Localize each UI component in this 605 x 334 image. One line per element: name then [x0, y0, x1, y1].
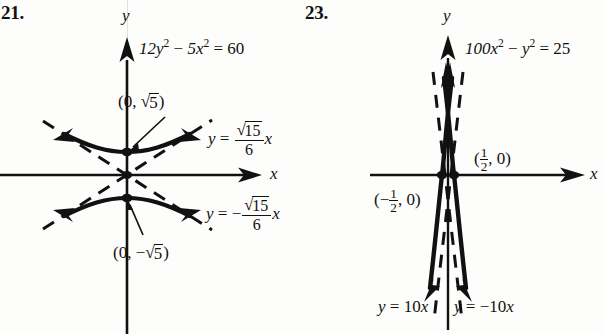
figure-23: 23. — [302, 0, 605, 334]
leader-line-top-21 — [133, 117, 165, 147]
equation-21: 12y2 − 5x2 = 60 — [139, 38, 244, 57]
vertex-label-top-21: (0, √5) — [118, 92, 164, 110]
y-axis-label-21: y — [122, 6, 130, 26]
figure-21: 21. — [0, 0, 302, 334]
vertex-dot-top-21 — [122, 148, 133, 156]
equation-23: 100x2 − y2 = 25 — [465, 38, 570, 57]
vertex-label-right-23: (12, 0) — [474, 146, 511, 174]
vertex-label-left-23: (−12, 0) — [374, 187, 421, 215]
asymptote-label-positive-23: y = 10x — [378, 298, 428, 315]
x-axis-label-21: x — [270, 164, 278, 184]
leader-arrow-top-21 — [129, 143, 139, 151]
y-axis-label-23: y — [443, 6, 451, 26]
origin-dot-21 — [122, 171, 132, 179]
asymptote-label-negative-23: y = −10x — [454, 298, 514, 315]
answer-key-page: 21. — [0, 0, 605, 334]
x-axis-label-23: x — [590, 164, 598, 184]
asymptote-label-negative-21: y = −√156x — [206, 196, 280, 235]
vertex-label-bottom-21: (0, −√5) — [113, 243, 169, 261]
arrow-lower-left-21 — [53, 208, 75, 222]
vertex-dot-right-23 — [449, 171, 459, 179]
asymptote-label-positive-21: y = √156x — [208, 121, 272, 160]
arrow-upper-left-21 — [53, 128, 75, 142]
y-axis-21 — [120, 37, 135, 334]
vertex-dot-bottom-21 — [122, 194, 133, 202]
vertex-dot-left-23 — [437, 171, 447, 179]
